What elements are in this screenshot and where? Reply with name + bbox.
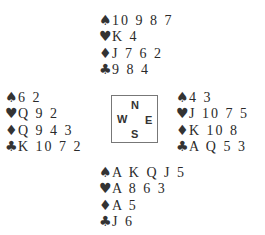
north-hand: ♠10 9 8 7 ♥K 4 ♦J 7 6 2 ♣9 8 4: [99, 12, 174, 77]
diamond-icon: ♦: [5, 122, 18, 138]
south-hearts: ♥A 8 6 3: [99, 180, 186, 196]
south-spades: ♠A K Q J 5: [99, 164, 186, 180]
south-clubs: ♣J 6: [99, 213, 186, 229]
compass-east: E: [145, 114, 152, 126]
diamond-icon: ♦: [99, 197, 112, 213]
north-spades: ♠10 9 8 7: [99, 12, 174, 28]
spade-icon: ♠: [176, 89, 189, 105]
north-hearts: ♥K 4: [99, 28, 174, 44]
club-icon: ♣: [99, 61, 112, 77]
west-hearts: ♥Q 9 2: [5, 105, 83, 121]
west-diamonds: ♦Q 9 4 3: [5, 122, 83, 138]
south-diamonds: ♦A 5: [99, 197, 186, 213]
east-hand: ♠4 3 ♥J 10 7 5 ♦K 10 8 ♣A Q 5 3: [176, 89, 249, 154]
east-clubs: ♣A Q 5 3: [176, 138, 249, 154]
compass-west: W: [117, 113, 127, 125]
heart-icon: ♥: [176, 105, 189, 121]
club-icon: ♣: [176, 138, 189, 154]
east-hearts: ♥J 10 7 5: [176, 105, 249, 121]
spade-icon: ♠: [5, 89, 18, 105]
east-diamonds: ♦K 10 8: [176, 122, 249, 138]
diamond-icon: ♦: [176, 122, 189, 138]
club-icon: ♣: [99, 213, 112, 229]
south-hand: ♠A K Q J 5 ♥A 8 6 3 ♦A 5 ♣J 6: [99, 164, 186, 229]
north-diamonds: ♦J 7 6 2: [99, 45, 174, 61]
compass-south: S: [131, 128, 138, 140]
club-icon: ♣: [5, 138, 18, 154]
spade-icon: ♠: [99, 164, 112, 180]
north-clubs: ♣9 8 4: [99, 61, 174, 77]
compass-box: N W E S: [111, 95, 158, 143]
west-spades: ♠6 2: [5, 89, 83, 105]
heart-icon: ♥: [5, 105, 18, 121]
east-spades: ♠4 3: [176, 89, 249, 105]
heart-icon: ♥: [99, 180, 112, 196]
west-clubs: ♣K 10 7 2: [5, 138, 83, 154]
spade-icon: ♠: [99, 12, 112, 28]
heart-icon: ♥: [99, 28, 112, 44]
compass-north: N: [131, 99, 139, 111]
west-hand: ♠6 2 ♥Q 9 2 ♦Q 9 4 3 ♣K 10 7 2: [5, 89, 83, 154]
diamond-icon: ♦: [99, 45, 112, 61]
